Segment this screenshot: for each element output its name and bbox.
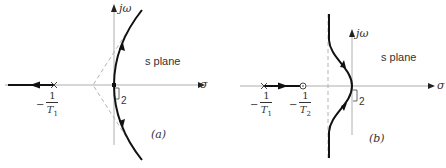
locus-arrow-left-icon — [30, 82, 40, 89]
real-axis-arrow-icon — [428, 83, 435, 89]
double-pole-marker-icon — [112, 83, 116, 87]
plane-label: s plane — [145, 56, 180, 67]
caption-b: (b) — [369, 133, 385, 144]
pole-label: − 1T1 — [36, 90, 58, 118]
zero-marker-dot — [302, 85, 304, 87]
upper-branch — [114, 10, 142, 85]
imag-axis-label: jω — [356, 28, 368, 39]
sign: − — [289, 99, 297, 110]
plane-label: s plane — [381, 52, 416, 63]
subscript: 1 — [267, 110, 271, 118]
zero-label: − 1T2 — [289, 90, 311, 118]
imag-axis-arrow-icon — [349, 29, 355, 37]
lower-branch — [329, 86, 352, 158]
pole-label: − 1T1 — [250, 90, 272, 118]
real-axis-label: σ — [437, 80, 445, 91]
numerator: 1 — [263, 90, 269, 101]
multiplicity-label: 2 — [121, 96, 127, 106]
imag-axis-arrow-icon — [111, 4, 117, 12]
upper-branch — [329, 14, 352, 86]
multiplicity-bracket — [353, 90, 357, 101]
numerator: 1 — [49, 90, 55, 101]
caption-a: (a) — [151, 129, 166, 140]
sign: − — [250, 99, 258, 110]
multiplicity-label: 2 — [359, 97, 365, 107]
imag-axis-label: jω — [119, 3, 131, 14]
real-axis-label: σ — [200, 79, 208, 90]
lower-branch — [114, 85, 142, 160]
panel-b — [240, 14, 435, 160]
sign: − — [36, 99, 44, 110]
subscript: 1 — [53, 110, 57, 118]
panel-a — [5, 4, 205, 160]
locus-arrow-right-icon — [278, 83, 288, 90]
numerator: 1 — [302, 90, 308, 101]
subscript: 2 — [306, 110, 310, 118]
